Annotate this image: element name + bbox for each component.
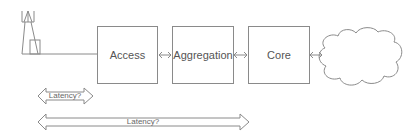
latency-short-label: Latency? <box>46 91 84 100</box>
cell-tower-icon <box>22 11 40 54</box>
access-node: Access <box>97 26 158 84</box>
cloud-icon <box>319 28 402 85</box>
network-latency-diagram: Access Aggregation Core Latency? Latency… <box>0 0 410 140</box>
link-aggregation-core <box>234 52 247 58</box>
core-node: Core <box>248 26 310 84</box>
aggregation-node: Aggregation <box>172 26 234 84</box>
access-label: Access <box>110 49 145 61</box>
aggregation-label: Aggregation <box>173 49 232 61</box>
core-label: Core <box>267 49 291 61</box>
latency-long-label: Latency? <box>46 117 240 126</box>
link-access-aggregation <box>159 52 171 58</box>
